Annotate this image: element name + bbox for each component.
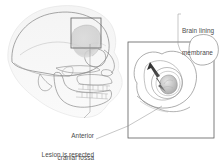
label-lesion-resected: Lesion is resected or excised — [10, 136, 94, 161]
label-membrane-line1: Brain lining — [182, 27, 214, 34]
label-membrane-line2: membrane — [182, 49, 214, 56]
label-lesion-line1: Lesion is resected — [10, 151, 94, 158]
skull-panel — [8, 6, 122, 118]
lesion-mass — [160, 75, 178, 94]
label-brain-lining-membrane: Brain lining membrane — [182, 12, 214, 64]
